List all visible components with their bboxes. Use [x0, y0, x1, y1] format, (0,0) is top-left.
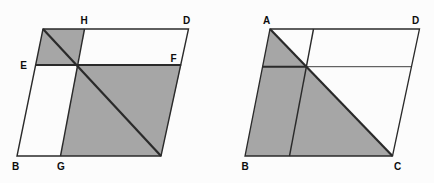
vertex-label-G: G — [57, 161, 65, 172]
vertex-label-E: E — [20, 60, 27, 71]
shaded-parallelogram-bottom-right — [61, 65, 182, 156]
vertex-label-H: H — [80, 15, 87, 26]
vertex-label-F: F — [170, 53, 176, 64]
vertex-label-B: B — [12, 161, 19, 172]
vertex-label-D: D — [412, 15, 419, 26]
vertex-label-D: D — [183, 15, 190, 26]
figure-canvas: HDEFBGADBC — [0, 0, 434, 183]
vertex-label-C: C — [394, 161, 401, 172]
vertex-label-B: B — [241, 161, 248, 172]
geometry-diagram: HDEFBGADBC — [0, 0, 434, 183]
vertex-label-A: A — [263, 15, 270, 26]
